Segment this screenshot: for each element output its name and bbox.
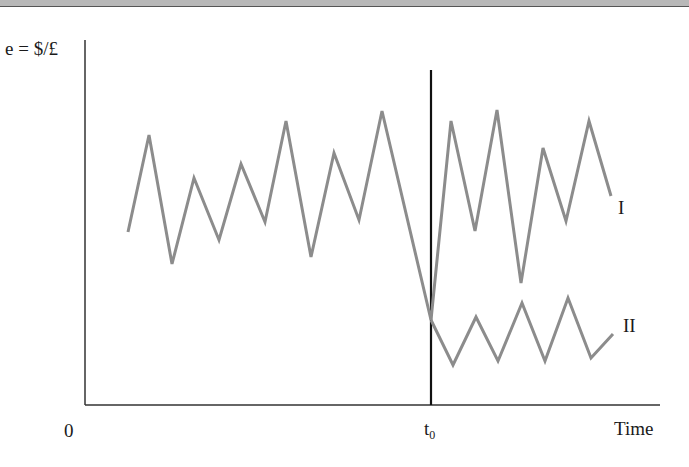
y-axis-label: e = $/£ [5, 38, 58, 60]
series-II-label: II [623, 315, 636, 337]
t0-label-subscript: 0 [429, 428, 435, 442]
x-axis-label: Time [614, 418, 653, 440]
series-I-line [128, 110, 611, 320]
chart-canvas [0, 0, 689, 467]
chart-figure: e = $/£ 0 t0 Time I II [0, 0, 689, 467]
series-I-label: I [618, 197, 624, 219]
t0-label: t0 [424, 418, 435, 443]
origin-label: 0 [64, 420, 74, 442]
series-II-line [431, 298, 613, 365]
